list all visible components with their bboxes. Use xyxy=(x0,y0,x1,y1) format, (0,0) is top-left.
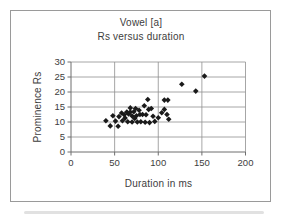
y-tick-label: 25 xyxy=(54,71,65,82)
data-point xyxy=(103,118,109,124)
x-tick-label: 100 xyxy=(150,157,166,168)
x-tick-label: 200 xyxy=(238,157,254,168)
x-tick-label: 0 xyxy=(68,157,73,168)
data-point xyxy=(147,120,153,126)
data-point xyxy=(155,115,161,121)
y-tick-label: 15 xyxy=(54,101,65,112)
data-point xyxy=(143,112,149,118)
data-point xyxy=(138,119,144,125)
data-point xyxy=(193,88,199,94)
x-tick-label: 150 xyxy=(194,157,210,168)
screenshot-root: { "chart": { "title_line1": "Vowel [a]",… xyxy=(0,0,282,221)
x-tick-label: 50 xyxy=(109,157,120,168)
data-point xyxy=(152,119,158,125)
y-tick-label: 20 xyxy=(54,86,65,97)
data-point xyxy=(202,73,208,79)
data-point xyxy=(165,97,171,103)
data-point xyxy=(141,103,147,109)
data-point xyxy=(164,112,170,118)
y-tick-label: 10 xyxy=(54,116,65,127)
y-tick-label: 0 xyxy=(60,146,65,157)
data-point xyxy=(145,97,151,103)
x-axis-title: Duration in ms xyxy=(71,178,246,189)
y-tick-label: 30 xyxy=(54,56,65,67)
data-point xyxy=(166,117,172,123)
data-point xyxy=(115,123,121,129)
y-axis-title: Prominence Rs xyxy=(32,54,44,160)
data-point xyxy=(150,114,156,120)
y-tick-label: 5 xyxy=(60,131,65,142)
data-point xyxy=(113,118,119,124)
data-point xyxy=(107,123,113,129)
data-point xyxy=(179,81,185,87)
scan-artifact xyxy=(24,211,264,214)
